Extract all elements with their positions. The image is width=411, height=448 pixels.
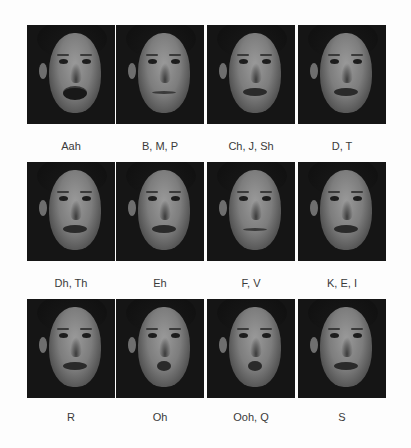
face-photo-ooh-q [207,299,295,398]
viseme-label: S [298,411,386,423]
face-photo-f-v [207,162,295,261]
face-photo-d-t [298,25,386,124]
viseme-label: R [27,411,115,423]
viseme-label: K, E, I [298,277,386,289]
viseme-label: D, T [298,140,386,152]
face-photo-eh [116,162,204,261]
viseme-label: Oh [116,411,204,423]
face-photo-r [27,299,115,398]
face-photo-bmp [116,25,204,124]
face-photo-aah [27,25,115,124]
face-photo-dh-th [27,162,115,261]
face-photo-ch-j-sh [207,25,295,124]
viseme-label: Aah [27,140,115,152]
viseme-label: F, V [207,277,295,289]
viseme-label: Ch, J, Sh [207,140,295,152]
viseme-label: Eh [116,277,204,289]
face-photo-k-e-i [298,162,386,261]
viseme-label: Ooh, Q [207,411,295,423]
viseme-label: Dh, Th [27,277,115,289]
face-photo-s [298,299,386,398]
viseme-label: B, M, P [116,140,204,152]
face-photo-oh [116,299,204,398]
